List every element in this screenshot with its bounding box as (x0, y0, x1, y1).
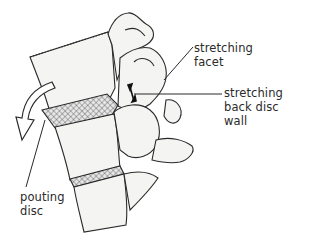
leader-line-facet (164, 47, 193, 80)
leader-line-pouting-disc (26, 120, 45, 187)
label-pouting-disc: pouting disc (20, 190, 65, 218)
middle-posterior-elements (114, 100, 193, 163)
label-stretching-back-disc-wall: stretching back disc wall (224, 86, 283, 128)
upper-posterior-elements (108, 13, 166, 110)
label-stretching-facet: stretching facet (194, 41, 253, 69)
